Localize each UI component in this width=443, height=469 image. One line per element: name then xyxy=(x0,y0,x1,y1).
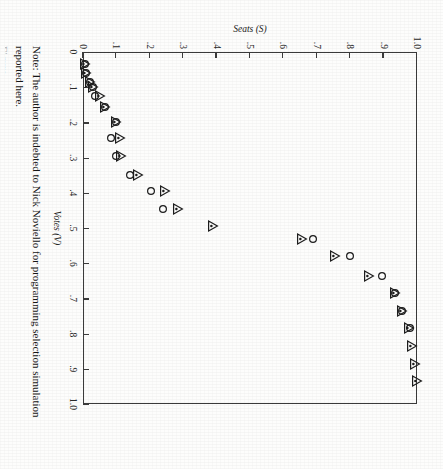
y-tick-label: .4 xyxy=(212,35,222,49)
triangle-marker xyxy=(410,358,420,369)
circle-marker xyxy=(80,60,89,69)
x-tick-label: 0 xyxy=(68,50,78,55)
x-axis-title: Votes (V) xyxy=(52,211,62,246)
x-tick-label: .3 xyxy=(68,154,78,161)
x-tick xyxy=(83,334,89,335)
x-tick-label: .4 xyxy=(68,189,78,196)
y-tick-label: .1 xyxy=(111,35,121,49)
x-tick xyxy=(83,263,89,264)
triangle-marker xyxy=(297,233,307,244)
triangle-marker xyxy=(115,133,125,144)
y-tick-label: 1.0 xyxy=(412,35,422,49)
triangle-marker xyxy=(364,270,374,281)
y-tick-label: .8 xyxy=(345,35,355,49)
circle-marker xyxy=(112,151,121,160)
rotated-figure: 0.1.2.3.4.5.6.7.8.91.0 0.1.2.3.4.5.6.7.8… xyxy=(0,0,443,469)
circle-marker xyxy=(107,134,116,143)
x-tick-label: .5 xyxy=(68,224,78,231)
circle-marker xyxy=(309,234,318,243)
y-tick xyxy=(416,52,417,58)
x-tick xyxy=(83,369,89,370)
triangle-marker xyxy=(330,251,340,262)
y-tick-label: .6 xyxy=(278,35,288,49)
y-axis-title: Seats (S) xyxy=(233,24,267,34)
x-tick xyxy=(83,404,89,405)
triangle-marker xyxy=(208,221,218,232)
y-tick xyxy=(382,52,383,58)
figure-note: Note: The author is indebted to Nick Nov… xyxy=(5,46,45,438)
circle-marker xyxy=(89,83,98,92)
circle-marker xyxy=(125,171,134,180)
y-tick xyxy=(349,52,350,58)
circle-marker xyxy=(82,69,91,78)
circle-marker xyxy=(147,187,156,196)
plot-frame xyxy=(83,52,417,404)
x-tick-label: .9 xyxy=(68,365,78,372)
x-tick-label: .2 xyxy=(68,119,78,126)
x-tick-label: .6 xyxy=(68,260,78,267)
y-tick-label: 0 xyxy=(78,35,88,49)
y-tick-label: .5 xyxy=(245,35,255,49)
circle-marker xyxy=(406,324,415,333)
circle-marker xyxy=(397,306,406,315)
x-tick xyxy=(83,228,89,229)
y-tick-label: .9 xyxy=(379,35,389,49)
x-tick-label: .1 xyxy=(68,84,78,91)
y-tick xyxy=(215,52,216,58)
figure-note-line-2: Figure xyxy=(5,46,12,438)
y-tick xyxy=(316,52,317,58)
circle-marker xyxy=(346,252,355,261)
x-tick xyxy=(83,122,89,123)
x-tick-label: .7 xyxy=(68,295,78,302)
y-tick xyxy=(282,52,283,58)
y-tick xyxy=(82,52,83,58)
circle-marker xyxy=(159,204,168,213)
y-tick xyxy=(149,52,150,58)
y-tick-label: .2 xyxy=(145,35,155,49)
triangle-marker xyxy=(173,203,183,214)
circle-marker xyxy=(100,102,109,111)
y-tick xyxy=(249,52,250,58)
x-tick xyxy=(83,298,89,299)
x-tick-label: .8 xyxy=(68,330,78,337)
figure-note-line-1: Note: The author is indebted to Nick Nov… xyxy=(12,46,45,438)
circle-marker xyxy=(391,289,400,298)
circle-marker xyxy=(377,271,386,280)
y-tick-label: .7 xyxy=(312,35,322,49)
scanned-page: 0.1.2.3.4.5.6.7.8.91.0 0.1.2.3.4.5.6.7.8… xyxy=(0,0,443,469)
x-tick xyxy=(83,158,89,159)
triangle-marker xyxy=(407,340,417,351)
y-tick xyxy=(115,52,116,58)
x-tick-label: 1.0 xyxy=(68,398,78,410)
triangle-marker xyxy=(412,376,422,387)
triangle-marker xyxy=(133,170,143,181)
circle-marker xyxy=(90,92,99,101)
triangle-marker xyxy=(160,186,170,197)
x-tick xyxy=(83,193,89,194)
scatter-plot: 0.1.2.3.4.5.6.7.8.91.0 0.1.2.3.4.5.6.7.8… xyxy=(83,52,417,404)
x-tick xyxy=(83,52,89,53)
circle-marker xyxy=(112,118,121,127)
y-tick-label: .3 xyxy=(178,35,188,49)
y-tick xyxy=(182,52,183,58)
